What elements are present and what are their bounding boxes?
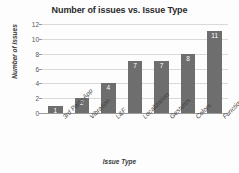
bar[interactable]: 11	[207, 31, 222, 113]
bar-value-label: 7	[154, 62, 169, 69]
y-axis-tick-label: 2	[19, 95, 39, 102]
chart-title: Number of issues vs. Issue Type	[0, 5, 239, 15]
bar-value-label: 11	[207, 32, 222, 39]
bar-series: 12477811	[42, 24, 228, 113]
bar-value-label: 8	[181, 55, 196, 62]
y-axis-title: Number of issues	[11, 17, 18, 87]
y-axis-tick-label: 6	[19, 65, 39, 72]
bar-value-label: 4	[101, 84, 116, 91]
y-axis-tick-label: 4	[19, 80, 39, 87]
y-axis-tick-label: 8	[19, 50, 39, 57]
bar-slot: 7	[122, 24, 149, 113]
y-axis-tick-label: 0	[19, 110, 39, 117]
bar[interactable]: 7	[128, 61, 143, 113]
y-axis-tick-label: 10	[19, 35, 39, 42]
x-axis-tick-labels: 3rd Party AppVibrationL&FLocalizationGes…	[42, 113, 228, 158]
bar-slot: 11	[201, 24, 228, 113]
bar-slot: 1	[42, 24, 69, 113]
y-axis-tick-label: 12	[19, 21, 39, 28]
plot-area: 024681012 12477811	[42, 24, 228, 113]
bar[interactable]: 1	[48, 106, 63, 113]
x-axis-title: Issue Type	[0, 158, 239, 165]
bar-value-label: 7	[128, 62, 143, 69]
bar-chart: Number of issues vs. Issue Type Number o…	[0, 0, 239, 173]
